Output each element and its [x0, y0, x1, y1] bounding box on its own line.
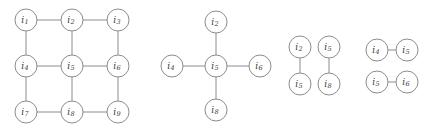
- grid-graph-nodes: i1i2i3i4i5i6i7i8i9: [15, 9, 129, 123]
- graph-node-h-i5a[interactable]: i5: [396, 39, 418, 61]
- graph-node-s-i6[interactable]: i6: [249, 55, 271, 77]
- horizontal-edge-pairs-nodes: i4i5i5i6: [366, 39, 418, 93]
- graph-node-i8[interactable]: i8: [61, 101, 83, 123]
- graph-node-s-i2[interactable]: i2: [205, 11, 227, 33]
- graph-node-i4[interactable]: i4: [15, 55, 37, 77]
- graph-node-i7[interactable]: i7: [15, 101, 37, 123]
- graph-node-h-i6[interactable]: i6: [396, 71, 418, 93]
- graph-node-s-i5[interactable]: i5: [205, 55, 227, 77]
- graph-node-i2[interactable]: i2: [61, 9, 83, 31]
- graph-node-v-i5a[interactable]: i5: [289, 73, 311, 95]
- horizontal-edge-pairs-edges: [388, 50, 396, 82]
- graph-node-v-i8[interactable]: i8: [318, 73, 340, 95]
- graph-node-i5[interactable]: i5: [61, 55, 83, 77]
- graph-figure: i1i2i3i4i5i6i7i8i9i2i4i5i6i8i2i5i5i8i4i5…: [0, 0, 431, 132]
- graph-node-s-i4[interactable]: i4: [161, 55, 183, 77]
- graph-node-h-i5b[interactable]: i5: [366, 71, 388, 93]
- graph-node-i6[interactable]: i6: [107, 55, 129, 77]
- graph-node-v-i5b[interactable]: i5: [318, 36, 340, 58]
- graph-node-i3[interactable]: i3: [107, 9, 129, 31]
- graph-node-i1[interactable]: i1: [15, 9, 37, 31]
- graph-node-i9[interactable]: i9: [107, 101, 129, 123]
- nodes-layer: i1i2i3i4i5i6i7i8i9i2i4i5i6i8i2i5i5i8i4i5…: [15, 9, 418, 123]
- vertical-edge-pairs-edges: [300, 58, 329, 73]
- vertical-edge-pairs-nodes: i2i5i5i8: [289, 36, 340, 95]
- graph-node-s-i8[interactable]: i8: [205, 99, 227, 121]
- graph-node-h-i4[interactable]: i4: [366, 39, 388, 61]
- star-graph-nodes: i2i4i5i6i8: [161, 11, 271, 121]
- graph-canvas: i1i2i3i4i5i6i7i8i9i2i4i5i6i8i2i5i5i8i4i5…: [0, 0, 431, 132]
- graph-node-v-i2[interactable]: i2: [289, 36, 311, 58]
